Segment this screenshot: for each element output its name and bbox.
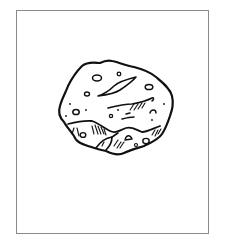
ridge-line — [68, 121, 160, 132]
pit — [85, 92, 90, 96]
pit — [143, 138, 149, 143]
pit — [145, 84, 153, 89]
pit — [80, 133, 86, 138]
crack-upper — [98, 77, 136, 96]
rock-outline — [59, 61, 173, 155]
pit — [117, 72, 121, 76]
illustration-canvas — [0, 0, 225, 240]
pit-triangle — [125, 136, 132, 140]
rock-icon — [0, 0, 225, 240]
crack-middle — [108, 98, 154, 108]
pit-arc — [150, 110, 156, 113]
pit — [93, 75, 102, 81]
pit — [135, 144, 138, 147]
pit — [73, 109, 79, 114]
pit — [109, 114, 112, 117]
crack-small — [122, 117, 134, 119]
lower-facet-line — [96, 137, 112, 150]
